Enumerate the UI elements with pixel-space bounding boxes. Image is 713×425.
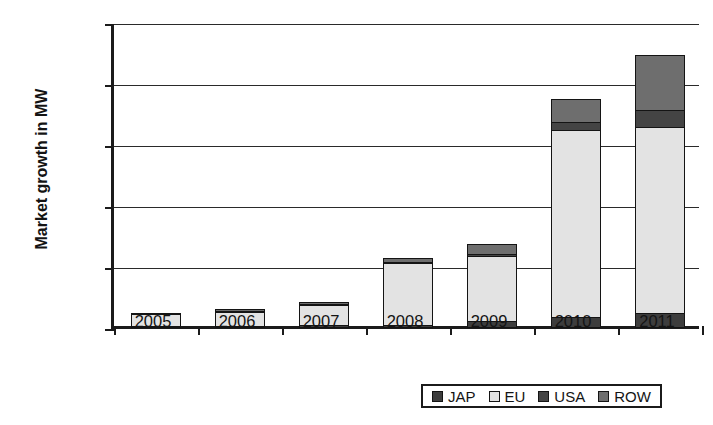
plot-area: 0500010000150002000025000 [111, 24, 699, 329]
x-axis-label: 2008 [365, 312, 445, 331]
stacked-bar-chart-figure: Market growth in MW 05000100001500020000… [0, 0, 713, 425]
x-axis-label: 2005 [113, 312, 193, 331]
bar-segment-row[interactable] [635, 55, 685, 111]
gridline [114, 146, 699, 147]
bar-segment-eu[interactable] [635, 127, 685, 315]
y-axis-tick [105, 207, 114, 209]
chart-legend: JAPEUUSAROW [421, 384, 662, 408]
bar-segment-eu[interactable] [551, 130, 601, 318]
x-axis-label: 2010 [533, 312, 613, 331]
gridline [114, 85, 699, 86]
swatch-jap-icon [432, 391, 443, 402]
gridline [114, 207, 699, 208]
swatch-eu-icon [489, 391, 500, 402]
x-axis-label: 2009 [449, 312, 529, 331]
y-axis-tick [105, 85, 114, 87]
bar-segment-usa[interactable] [635, 110, 685, 128]
legend-item-jap[interactable]: JAP [432, 389, 476, 404]
y-axis-tick [105, 268, 114, 270]
x-axis-tick [702, 326, 704, 335]
y-axis-tick [105, 24, 114, 26]
x-axis-label: 2007 [281, 312, 361, 331]
x-axis-label: 2011 [617, 312, 697, 331]
legend-item-usa[interactable]: USA [538, 389, 585, 404]
y-axis-tick [105, 146, 114, 148]
y-axis-title: Market growth in MW [33, 49, 51, 289]
legend-label: ROW [614, 389, 651, 404]
bar-stack[interactable] [635, 55, 685, 326]
legend-item-row[interactable]: ROW [598, 389, 651, 404]
swatch-usa-icon [538, 391, 549, 402]
legend-label: EU [505, 389, 526, 404]
x-axis-label: 2006 [197, 312, 277, 331]
gridline [114, 24, 699, 25]
legend-item-eu[interactable]: EU [489, 389, 526, 404]
bar-stack[interactable] [551, 99, 601, 326]
legend-label: JAP [448, 389, 476, 404]
swatch-row-icon [598, 391, 609, 402]
legend-label: USA [554, 389, 585, 404]
bar-segment-row[interactable] [551, 99, 601, 123]
